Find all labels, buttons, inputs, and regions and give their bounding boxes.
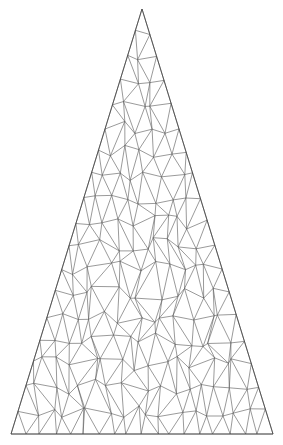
mesh-edge <box>102 195 112 222</box>
mesh-edge <box>73 267 88 275</box>
mesh-edge <box>121 383 148 391</box>
mesh-edge <box>119 251 120 261</box>
mesh-edge <box>148 333 155 366</box>
mesh-edge <box>208 344 215 358</box>
mesh-edge <box>110 156 120 173</box>
mesh-edge <box>156 200 173 204</box>
mesh-edge <box>143 172 156 203</box>
mesh-edge <box>119 261 120 287</box>
mesh-edge <box>62 408 84 417</box>
mesh-edge <box>168 344 175 361</box>
mesh-edge <box>203 245 215 264</box>
mesh-edge <box>172 152 186 154</box>
mesh-edge <box>177 357 190 390</box>
mesh-edge <box>165 129 179 133</box>
mesh-edge <box>120 145 125 173</box>
mesh-edge <box>124 102 146 107</box>
mesh-edge <box>186 198 201 199</box>
mesh-edge <box>112 102 123 105</box>
mesh-edge <box>215 358 229 363</box>
mesh-edge <box>133 226 148 249</box>
mesh-edge <box>167 215 168 239</box>
mesh-edge <box>121 359 123 383</box>
mesh-edge <box>124 406 139 417</box>
mesh-edge <box>183 411 196 413</box>
mesh-edge <box>194 316 214 320</box>
mesh-edge <box>178 247 196 249</box>
mesh-edge <box>175 344 192 345</box>
mesh-edge <box>115 417 124 434</box>
mesh-edge <box>118 219 133 251</box>
mesh-edge <box>69 320 78 344</box>
mesh-edge <box>203 316 214 347</box>
mesh-edge <box>138 60 150 83</box>
mesh-edge <box>114 323 118 335</box>
mesh-edge <box>150 80 164 82</box>
mesh-edge <box>55 341 69 344</box>
mesh-edge <box>125 121 135 133</box>
mesh-edge <box>56 357 69 394</box>
mesh-edge <box>139 83 150 84</box>
mesh-edge <box>105 386 111 414</box>
mesh-edge <box>203 264 222 269</box>
mesh-edge <box>102 219 118 223</box>
mesh-edge <box>233 413 246 434</box>
mesh-edge <box>185 152 186 174</box>
mesh-edge <box>40 340 42 357</box>
mesh-edge <box>138 203 156 204</box>
mesh-edge <box>130 181 138 205</box>
mesh-edge <box>250 387 258 408</box>
mesh-edge <box>105 359 122 385</box>
mesh-edge <box>138 172 143 204</box>
mesh-edge <box>138 322 155 342</box>
mesh-edge <box>55 388 57 410</box>
mesh-edge <box>201 385 206 417</box>
mesh-edge <box>85 408 100 434</box>
mesh-edge <box>90 225 100 240</box>
mesh-edge <box>96 359 98 380</box>
mesh-edge <box>62 417 71 434</box>
mesh-edge <box>183 389 190 412</box>
mesh-edge <box>213 387 223 416</box>
mesh-edge <box>247 387 258 389</box>
mesh-edge <box>217 315 231 343</box>
mesh-edge <box>196 249 197 265</box>
mesh-edge <box>178 229 187 247</box>
mesh-edge <box>229 359 231 388</box>
mesh-edge <box>148 386 160 391</box>
mesh-edge <box>231 359 251 364</box>
mesh-edge <box>87 240 100 267</box>
mesh-edge <box>104 311 117 323</box>
mesh-edge <box>189 346 192 368</box>
mesh-edge <box>223 413 233 416</box>
mesh-edge <box>125 145 139 149</box>
mesh-edge <box>135 262 156 299</box>
mesh-edge <box>139 84 146 107</box>
mesh-edge <box>207 387 214 416</box>
mesh-edge <box>105 383 121 386</box>
mesh-edge <box>90 196 96 225</box>
mesh-edge <box>34 357 42 384</box>
mesh-edge <box>190 385 201 390</box>
mesh-edge <box>78 225 89 245</box>
mesh-edge <box>56 357 57 388</box>
mesh-edge <box>26 383 34 385</box>
mesh-edge <box>178 247 196 265</box>
mesh-edge <box>73 292 87 295</box>
mesh-edge <box>134 342 138 371</box>
mesh-edge <box>178 270 186 297</box>
mesh-edge <box>104 311 113 335</box>
mesh-edge <box>63 314 79 320</box>
mesh-edge <box>213 288 229 292</box>
mesh-edge <box>114 335 131 336</box>
mesh-edge <box>185 289 194 321</box>
mesh-edge <box>233 389 247 413</box>
mesh-edge <box>154 157 162 177</box>
mesh-edge <box>95 196 102 223</box>
mesh-edge <box>117 323 131 336</box>
mesh-edge <box>69 246 73 275</box>
mesh-edge <box>112 105 124 122</box>
mesh-edge <box>69 245 78 246</box>
mesh-edge <box>173 175 185 200</box>
mesh-edge <box>39 410 55 435</box>
